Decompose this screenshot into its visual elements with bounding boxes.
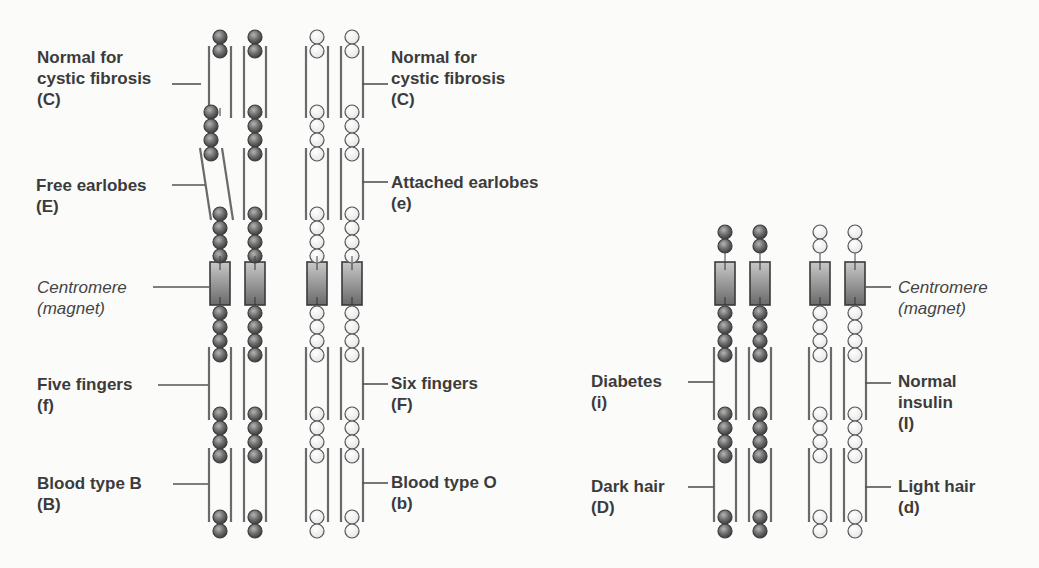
dominant-allele-bead xyxy=(248,320,262,334)
dominant-allele-bead xyxy=(204,147,218,161)
label-line: Six fingers xyxy=(391,373,478,394)
recessive-allele-bead xyxy=(848,524,862,538)
dominant-allele-bead xyxy=(213,30,227,44)
dominant-allele-bead xyxy=(213,524,227,538)
recessive-allele-bead xyxy=(345,44,359,58)
recessive-allele-bead xyxy=(310,320,324,334)
recessive-allele-bead xyxy=(310,421,324,435)
label-line: Light hair xyxy=(898,476,975,497)
recessive-allele-bead xyxy=(813,348,827,362)
dominant-allele-bead xyxy=(718,510,732,524)
dominant-allele-bead xyxy=(248,510,262,524)
dominant-allele-bead xyxy=(753,524,767,538)
recessive-allele-bead xyxy=(310,235,324,249)
recessive-allele-bead xyxy=(310,119,324,133)
dominant-allele-bead xyxy=(213,221,227,235)
label-line: (b) xyxy=(391,493,497,514)
dominant-allele-bead xyxy=(753,306,767,320)
label-line: Five fingers xyxy=(37,374,132,395)
label-line: Centromere xyxy=(37,277,127,298)
label-line: (e) xyxy=(391,193,538,214)
label-dark-hair: Dark hair (D) xyxy=(591,476,665,518)
dominant-allele-bead xyxy=(248,207,262,221)
dominant-allele-bead xyxy=(248,348,262,362)
label-attached-earlobes: Attached earlobes (e) xyxy=(391,172,538,214)
dominant-allele-bead xyxy=(718,239,732,253)
recessive-allele-bead xyxy=(310,44,324,58)
label-line: (i) xyxy=(591,392,662,413)
recessive-allele-bead xyxy=(848,421,862,435)
dominant-allele-bead xyxy=(753,510,767,524)
label-line: (E) xyxy=(36,196,147,217)
recessive-allele-bead xyxy=(813,510,827,524)
dominant-allele-bead xyxy=(213,207,227,221)
dominant-allele-bead xyxy=(248,306,262,320)
label-line: (C) xyxy=(37,89,151,110)
recessive-allele-bead xyxy=(848,435,862,449)
dominant-allele-bead xyxy=(248,221,262,235)
dominant-allele-bead xyxy=(753,449,767,463)
recessive-allele-bead xyxy=(813,320,827,334)
label-line: insulin xyxy=(898,392,957,413)
dominant-allele-bead xyxy=(718,435,732,449)
dominant-allele-bead xyxy=(213,235,227,249)
label-blood-type-o: Blood type O (b) xyxy=(391,472,497,514)
dominant-allele-bead xyxy=(718,407,732,421)
label-five-fingers: Five fingers (f) xyxy=(37,374,132,416)
recessive-allele-bead xyxy=(848,306,862,320)
recessive-allele-bead xyxy=(345,348,359,362)
recessive-allele-bead xyxy=(310,147,324,161)
recessive-allele-bead xyxy=(345,235,359,249)
recessive-allele-bead xyxy=(310,348,324,362)
dominant-allele-bead xyxy=(248,30,262,44)
label-diabetes: Diabetes (i) xyxy=(591,371,662,413)
label-line: Dark hair xyxy=(591,476,665,497)
dominant-allele-bead xyxy=(248,421,262,435)
recessive-allele-bead xyxy=(848,334,862,348)
label-centromere-left: Centromere (magnet) xyxy=(37,277,127,319)
dominant-allele-bead xyxy=(248,147,262,161)
dominant-allele-bead xyxy=(213,421,227,435)
recessive-allele-bead xyxy=(813,524,827,538)
recessive-allele-bead xyxy=(345,334,359,348)
label-normal-cystic-fibrosis-right: Normal for cystic fibrosis (C) xyxy=(391,47,505,110)
recessive-allele-bead xyxy=(345,510,359,524)
dominant-allele-bead xyxy=(248,334,262,348)
dominant-allele-bead xyxy=(248,235,262,249)
recessive-allele-bead xyxy=(345,30,359,44)
recessive-allele-bead xyxy=(345,407,359,421)
label-blood-type-b: Blood type B (B) xyxy=(37,473,142,515)
recessive-allele-bead xyxy=(310,449,324,463)
recessive-allele-bead xyxy=(345,421,359,435)
label-free-earlobes: Free earlobes (E) xyxy=(36,175,147,217)
label-line: Diabetes xyxy=(591,371,662,392)
dominant-allele-bead xyxy=(248,119,262,133)
recessive-allele-bead xyxy=(813,334,827,348)
label-line: Blood type O xyxy=(391,472,497,493)
recessive-allele-bead xyxy=(310,306,324,320)
dominant-allele-bead xyxy=(718,421,732,435)
recessive-allele-bead xyxy=(345,119,359,133)
dominant-allele-bead xyxy=(213,449,227,463)
recessive-allele-bead xyxy=(310,524,324,538)
label-normal-insulin: Normal insulin (I) xyxy=(898,371,957,434)
label-line: Normal for xyxy=(391,47,505,68)
recessive-allele-bead xyxy=(310,435,324,449)
label-line: Normal xyxy=(898,371,957,392)
recessive-allele-bead xyxy=(345,207,359,221)
dominant-allele-bead xyxy=(204,105,218,119)
label-line: Free earlobes xyxy=(36,175,147,196)
label-line: Blood type B xyxy=(37,473,142,494)
recessive-allele-bead xyxy=(848,348,862,362)
recessive-allele-bead xyxy=(848,320,862,334)
recessive-allele-bead xyxy=(345,221,359,235)
recessive-allele-bead xyxy=(848,510,862,524)
dominant-allele-bead xyxy=(213,510,227,524)
dominant-allele-bead xyxy=(248,105,262,119)
recessive-allele-bead xyxy=(813,407,827,421)
dominant-allele-bead xyxy=(204,133,218,147)
dominant-allele-bead xyxy=(213,334,227,348)
dominant-allele-bead xyxy=(753,348,767,362)
label-line: (magnet) xyxy=(898,298,988,319)
dominant-allele-bead xyxy=(248,524,262,538)
